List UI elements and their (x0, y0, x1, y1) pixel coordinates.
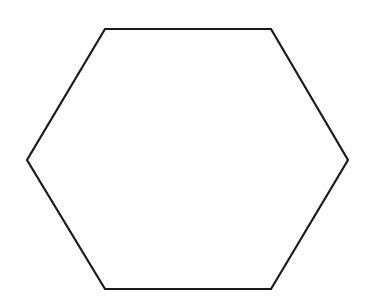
drawing-canvas (0, 0, 374, 298)
hexagon-shape-svg (0, 0, 374, 298)
canvas-background (0, 0, 374, 298)
